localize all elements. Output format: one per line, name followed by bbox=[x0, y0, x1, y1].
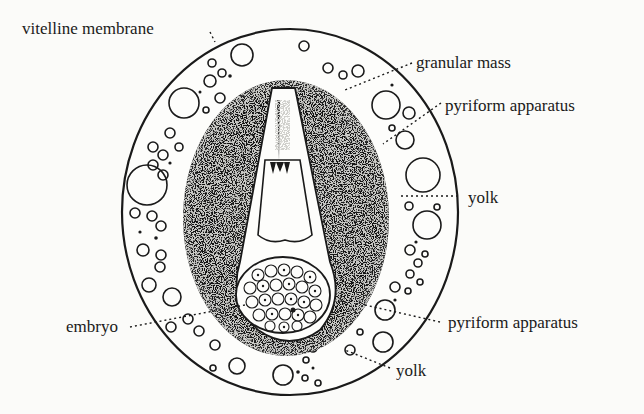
label-embryo: embryo bbox=[66, 318, 118, 335]
label-pyriform-apparatus-upper: pyriform apparatus bbox=[445, 97, 575, 114]
egg-diagram bbox=[0, 0, 644, 414]
label-granular-mass: granular mass bbox=[416, 54, 511, 71]
label-yolk-right: yolk bbox=[468, 189, 498, 206]
embryo-cell-mass bbox=[236, 257, 330, 333]
label-yolk-bottom: yolk bbox=[396, 362, 426, 379]
label-vitelline-membrane: vitelline membrane bbox=[22, 20, 154, 37]
label-pyriform-apparatus-lower: pyriform apparatus bbox=[448, 314, 578, 331]
